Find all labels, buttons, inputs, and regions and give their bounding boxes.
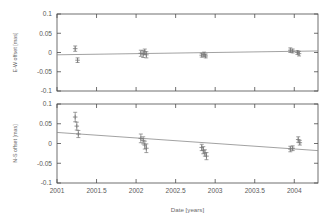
y-tick-label: 0 xyxy=(48,49,52,56)
y-tick-label: -0.1 xyxy=(41,87,53,94)
y-tick-label: -0.1 xyxy=(41,179,53,186)
plot-frame xyxy=(57,104,318,183)
x-tick-label: 2003 xyxy=(208,187,223,194)
y-tick-label: 0.1 xyxy=(43,10,52,17)
x-axis: 20012001.520022002.520032003.52004Date [… xyxy=(50,187,302,213)
y-tick-label: 0.1 xyxy=(43,100,52,107)
y-tick-label: 0.05 xyxy=(39,120,52,127)
fit-line xyxy=(57,51,318,55)
x-tick-label: 2002.5 xyxy=(166,187,187,194)
x-tick-label: 2003.5 xyxy=(245,187,266,194)
x-tick-label: 2001.5 xyxy=(86,187,107,194)
y-tick-label: -0.05 xyxy=(37,68,52,75)
figure-root: 0.10.050-0.05-0.1E-W offset [mas]0.10.05… xyxy=(0,0,330,222)
y-axis-title-ns: N-S offset [mas] xyxy=(12,124,18,163)
x-axis-title: Date [years] xyxy=(171,206,205,213)
offset-vs-date-plot: 0.10.050-0.05-0.1E-W offset [mas]0.10.05… xyxy=(0,0,330,222)
panel-ns: 0.10.050-0.05-0.1N-S offset [mas] xyxy=(12,100,318,186)
y-tick-label: -0.05 xyxy=(37,160,52,167)
y-tick-label: 0 xyxy=(48,140,52,147)
x-tick-label: 2001 xyxy=(50,187,65,194)
panel-ew: 0.10.050-0.05-0.1E-W offset [mas] xyxy=(12,10,318,94)
x-tick-label: 2002 xyxy=(129,187,144,194)
x-tick-label: 2004 xyxy=(287,187,302,194)
y-tick-label: 0.05 xyxy=(39,30,52,37)
fit-line xyxy=(57,132,318,150)
y-axis-title-ew: E-W offset [mas] xyxy=(12,32,18,72)
